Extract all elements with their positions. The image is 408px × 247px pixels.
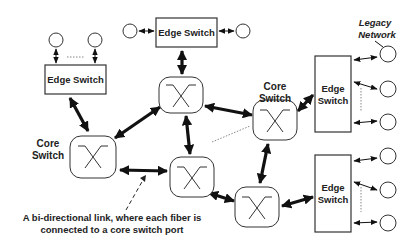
link-core-right-core-bottom xyxy=(260,144,268,183)
edge-switch-label: Edge xyxy=(321,182,344,193)
host-link xyxy=(354,222,377,223)
core-switch-label: Core xyxy=(264,81,287,92)
host-circle-legacy xyxy=(380,46,396,62)
host-link xyxy=(354,82,377,89)
edge-switch-top-left: Edge Switch xyxy=(45,65,106,94)
host-circle xyxy=(49,33,63,47)
edge-switch-right-bottom: Edge Switch xyxy=(315,155,351,232)
host-circle xyxy=(380,81,396,97)
dotted-connector xyxy=(212,126,250,142)
host-circle xyxy=(88,33,102,47)
caption-pointer-head xyxy=(140,175,146,182)
core-switch-middle xyxy=(170,157,214,197)
host-circle xyxy=(380,182,396,198)
link-core-middle-core-bottom xyxy=(209,193,234,201)
link-core-right-edge-right-top xyxy=(298,95,313,111)
core-switch-left xyxy=(70,136,116,178)
network-diagram: Edge Switch Edge Switch Core Switch Core… xyxy=(0,0,408,247)
edge-switch-label: Edge xyxy=(321,83,344,94)
legacy-pointer xyxy=(375,41,383,47)
link-core-left-core-middle xyxy=(120,170,167,171)
host-circle xyxy=(123,24,137,38)
legacy-network-label: Legacy xyxy=(359,17,392,28)
host-link xyxy=(354,158,377,161)
edge-switch-label: Switch xyxy=(318,194,349,205)
core-switch-bottom xyxy=(235,187,279,227)
edge-switch-right-top: Edge Switch xyxy=(315,56,351,132)
caption-line-2: connected to a core switch port xyxy=(40,224,184,235)
core-switch-label: Core xyxy=(37,138,60,149)
link-core-top-core-middle xyxy=(186,116,190,154)
link-core-top-core-left xyxy=(115,107,160,138)
edge-switch-label: Edge Switch xyxy=(47,74,104,85)
host-circle xyxy=(380,114,396,130)
link-edge-top-left-core-left xyxy=(70,98,88,131)
host-link xyxy=(354,121,377,123)
link-core-top-core-right xyxy=(205,106,252,115)
core-switch-right xyxy=(253,100,297,140)
link-core-bottom-edge-right-bottom xyxy=(282,197,313,206)
host-link xyxy=(354,182,377,190)
host-circle xyxy=(236,24,250,38)
core-switch-label: Switch xyxy=(32,150,64,161)
legacy-network-label: Network xyxy=(358,29,396,40)
host-circle xyxy=(380,148,396,164)
edge-switch-top-center: Edge Switch xyxy=(156,18,217,47)
edge-switch-label: Edge Switch xyxy=(158,27,215,38)
caption-line-1: A bi-directional link, where each fiber … xyxy=(23,212,202,223)
edge-switch-label: Switch xyxy=(318,95,349,106)
caption-pointer xyxy=(126,180,143,210)
core-switch-top xyxy=(159,77,203,113)
host-circle xyxy=(380,215,396,231)
core-switch-label: Switch xyxy=(259,93,291,104)
host-link xyxy=(354,57,377,60)
